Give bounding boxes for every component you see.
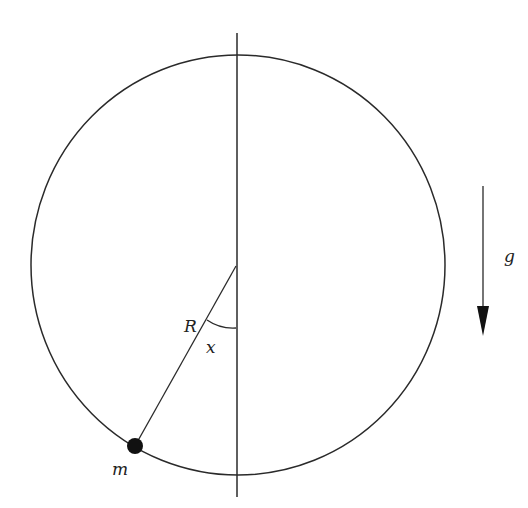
mass-bead	[127, 438, 143, 454]
hoop-diagram: R x m g	[0, 0, 528, 508]
gravity-label: g	[504, 246, 515, 266]
angle-label: x	[206, 337, 216, 357]
radius-line	[135, 266, 236, 446]
mass-label: m	[112, 459, 128, 479]
hoop-circle	[31, 55, 445, 475]
radius-label: R	[183, 316, 197, 336]
angle-arc	[207, 320, 236, 328]
gravity-arrow-head	[477, 306, 489, 336]
